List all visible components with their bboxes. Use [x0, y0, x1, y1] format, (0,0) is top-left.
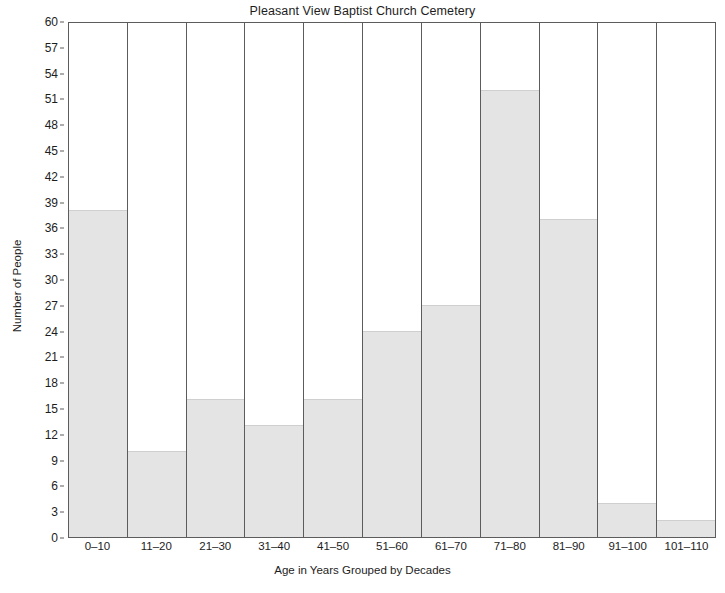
- y-axis-tick-label: 15: [45, 402, 58, 416]
- bar: [187, 399, 245, 537]
- histogram-bin: [422, 23, 481, 537]
- y-axis-tick-mark: [60, 47, 64, 48]
- y-axis-tick-mark: [60, 176, 64, 177]
- y-axis-tick-mark: [60, 409, 64, 410]
- x-axis-tick-label: 41–50: [304, 540, 363, 560]
- chart-title: Pleasant View Baptist Church Cemetery: [0, 4, 725, 18]
- x-axis-tick-label: 61–70: [421, 540, 480, 560]
- x-axis-label: Age in Years Grouped by Decades: [0, 564, 725, 576]
- x-axis-tick-label: 11–20: [127, 540, 186, 560]
- y-axis-tick-mark: [60, 228, 64, 229]
- histogram-bin: [481, 23, 540, 537]
- x-axis: 0–1011–2021–3031–4041–5051–6061–7071–808…: [68, 540, 716, 560]
- y-axis-tick-mark: [60, 254, 64, 255]
- y-axis-tick-mark: [60, 73, 64, 74]
- histogram-bin: [304, 23, 363, 537]
- y-axis-tick-label: 12: [45, 428, 58, 442]
- x-axis-tick-label: 31–40: [245, 540, 304, 560]
- y-axis-tick-label: 45: [45, 144, 58, 158]
- histogram-bin: [657, 23, 715, 537]
- x-axis-tick-label: 21–30: [186, 540, 245, 560]
- y-axis-tick-mark: [60, 512, 64, 513]
- bar: [657, 520, 715, 537]
- y-axis-tick-mark: [60, 305, 64, 306]
- y-axis-label: Number of People: [11, 216, 23, 356]
- y-axis-tick-label: 6: [51, 479, 58, 493]
- x-axis-tick-label: 0–10: [68, 540, 127, 560]
- y-axis-tick-mark: [60, 383, 64, 384]
- y-axis-tick-mark: [60, 99, 64, 100]
- bar: [128, 451, 186, 537]
- y-axis-tick-label: 42: [45, 170, 58, 184]
- x-axis-tick-label: 81–90: [539, 540, 598, 560]
- y-axis-tick-label: 0: [51, 531, 58, 545]
- y-axis-tick-label: 21: [45, 350, 58, 364]
- histogram-bin: [245, 23, 304, 537]
- x-axis-tick-label: 51–60: [363, 540, 422, 560]
- y-axis-tick-label: 9: [51, 454, 58, 468]
- y-axis-tick-mark: [60, 434, 64, 435]
- y-axis-tick-label: 33: [45, 247, 58, 261]
- bar: [422, 305, 480, 537]
- x-axis-tick-label: 71–80: [480, 540, 539, 560]
- y-axis-tick-label: 51: [45, 92, 58, 106]
- bar: [481, 90, 539, 537]
- y-axis-tick-mark: [60, 486, 64, 487]
- bar: [540, 219, 598, 537]
- y-axis-tick-label: 39: [45, 196, 58, 210]
- histogram-bin: [540, 23, 599, 537]
- histogram-bin: [187, 23, 246, 537]
- y-axis-tick-label: 60: [45, 15, 58, 29]
- bar-series: [69, 23, 715, 537]
- y-axis-tick-mark: [60, 22, 64, 23]
- y-axis-tick-label: 24: [45, 325, 58, 339]
- y-axis-tick-label: 36: [45, 221, 58, 235]
- y-axis-tick-label: 27: [45, 299, 58, 313]
- y-axis-tick-label: 18: [45, 376, 58, 390]
- bar: [245, 425, 303, 537]
- plot-area: [68, 22, 716, 538]
- y-axis-tick-mark: [60, 538, 64, 539]
- histogram-bin: [128, 23, 187, 537]
- y-axis-tick-mark: [60, 280, 64, 281]
- x-axis-tick-label: 101–110: [657, 540, 716, 560]
- histogram-chart: Pleasant View Baptist Church Cemetery 03…: [0, 0, 725, 593]
- y-axis-tick-mark: [60, 151, 64, 152]
- bar: [598, 503, 656, 537]
- y-axis-tick-mark: [60, 202, 64, 203]
- bar: [69, 210, 127, 537]
- histogram-bin: [363, 23, 422, 537]
- histogram-bin: [69, 23, 128, 537]
- bar: [363, 331, 421, 537]
- y-axis-tick-mark: [60, 460, 64, 461]
- y-axis-tick-label: 30: [45, 273, 58, 287]
- y-axis-tick-mark: [60, 357, 64, 358]
- histogram-bin: [598, 23, 657, 537]
- y-axis-tick-label: 54: [45, 67, 58, 81]
- y-axis-tick-mark: [60, 125, 64, 126]
- y-axis-tick-label: 57: [45, 41, 58, 55]
- bar: [304, 399, 362, 537]
- x-axis-tick-label: 91–100: [598, 540, 657, 560]
- y-axis-tick-mark: [60, 331, 64, 332]
- y-axis-tick-label: 48: [45, 118, 58, 132]
- y-axis-tick-label: 3: [51, 505, 58, 519]
